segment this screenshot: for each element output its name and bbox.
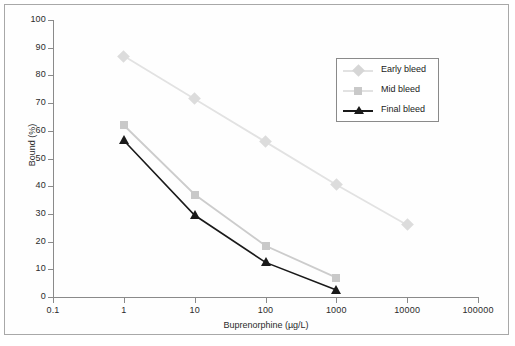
legend-label: Early bleed	[381, 64, 426, 74]
legend-label: Mid bleed	[381, 84, 420, 94]
diamond-marker-icon	[352, 64, 365, 77]
chart-figure: 0102030405060708090100 0.111010010001000…	[0, 0, 515, 346]
chart-legend: Early bleed Mid bleed Final bleed	[336, 58, 439, 122]
series-line-mid-bleed	[124, 125, 336, 277]
legend-item-final-bleed[interactable]: Final bleed	[337, 101, 438, 121]
triangle-marker-icon	[354, 106, 364, 114]
square-marker-icon	[354, 87, 362, 95]
series-lines	[0, 0, 515, 346]
legend-item-mid-bleed[interactable]: Mid bleed	[337, 81, 438, 101]
series-line-final-bleed	[124, 141, 336, 291]
legend-item-early-bleed[interactable]: Early bleed	[337, 61, 438, 81]
legend-label: Final bleed	[381, 104, 425, 114]
